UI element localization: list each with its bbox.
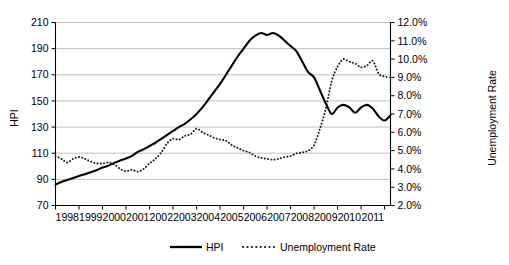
legend-label-unemployment: Unemployment Rate [280, 241, 376, 253]
x-axis-tick-label: 1999 [79, 211, 103, 223]
right-axis-tick-label: 3.0% [398, 181, 422, 193]
left-axis-tick-label: 150 [31, 95, 49, 107]
right-axis-tick-label: 12.0% [398, 16, 428, 28]
y-axis-title: HPI [8, 109, 20, 127]
right-axis-tick-label: 7.0% [398, 108, 422, 120]
series-group [56, 33, 391, 185]
series-line-hpi [56, 33, 391, 185]
x-axis-tick-label: 2006 [244, 211, 268, 223]
x-axis-tick-label: 2002 [150, 211, 174, 223]
x-axis-tick-label: 2009 [314, 211, 338, 223]
left-axis-tick-label: 110 [32, 147, 49, 159]
right-axis-tick-label: 9.0% [398, 71, 422, 83]
y2-axis-title: Unemployment Rate [486, 70, 498, 166]
right-axis-tick-label: 5.0% [398, 144, 422, 156]
right-axis-tick-label: 8.0% [398, 89, 422, 101]
line-chart: 7090110130150170190210 2.0%3.0%4.0%5.0%6… [0, 0, 509, 265]
left-axis-tick-label: 130 [31, 121, 49, 133]
x-axis-tick-label: 2007 [267, 211, 291, 223]
chart-legend: HPIUnemployment Rate [170, 241, 376, 253]
left-axis-tick-label: 210 [31, 16, 49, 28]
gridlines-group [56, 23, 391, 206]
x-axis-tick-label: 2004 [197, 211, 221, 223]
x-axis-tick-label: 2011 [362, 211, 385, 223]
axis-titles: HPIUnemployment Rate [8, 70, 498, 166]
x-axis-tick-label: 2001 [126, 211, 150, 223]
x-axis-tick-label: 2005 [220, 211, 244, 223]
x-axis-tick-label: 1998 [56, 211, 80, 223]
y-axis-left: 7090110130150170190210 [31, 16, 56, 211]
left-axis-tick-label: 170 [31, 68, 49, 80]
series-line-unemployment [56, 59, 391, 172]
right-axis-tick-label: 4.0% [398, 163, 422, 175]
x-axis-tick-label: 2003 [173, 211, 197, 223]
left-axis-tick-label: 70 [37, 199, 49, 211]
x-axis: 1998199920002001200220032004200520062007… [56, 206, 391, 223]
left-axis-tick-label: 90 [37, 173, 49, 185]
right-axis-tick-label: 6.0% [398, 126, 422, 138]
x-axis-tick-label: 2000 [103, 211, 127, 223]
chart-container: 7090110130150170190210 2.0%3.0%4.0%5.0%6… [0, 0, 509, 265]
y-axis-right: 2.0%3.0%4.0%5.0%6.0%7.0%8.0%9.0%10.0%11.… [391, 16, 428, 211]
right-axis-tick-label: 2.0% [398, 199, 422, 211]
left-axis-tick-label: 190 [31, 42, 49, 54]
right-axis-tick-label: 10.0% [398, 53, 428, 65]
x-axis-tick-label: 2010 [338, 211, 362, 223]
x-axis-tick-label: 2008 [291, 211, 315, 223]
legend-label-hpi: HPI [206, 241, 224, 253]
right-axis-tick-label: 11.0% [398, 35, 427, 47]
